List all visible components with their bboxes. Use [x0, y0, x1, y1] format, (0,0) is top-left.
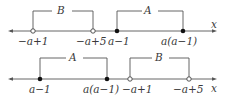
top-axis-label: x — [211, 18, 217, 30]
bottom-interval-b-label: B — [154, 51, 163, 63]
top-point-a-minus-1-filled — [115, 29, 120, 34]
top-label-neg-a-plus-1: −a+1 — [18, 35, 49, 47]
top-point-neg-a-plus-5-open — [91, 29, 95, 33]
top-label-a-times-a-minus-1: a(a−1) — [161, 35, 197, 47]
top-number-line: x B A −a+1 −a+5 a−1 a(a−1) — [8, 4, 217, 47]
right-arrow-icon — [212, 77, 217, 80]
top-label-neg-a-plus-5: −a+5 — [76, 35, 107, 47]
top-point-neg-a-plus-1-open — [31, 29, 35, 33]
number-line-diagram: x B A −a+1 −a+5 a−1 a(a−1) x A B — [0, 0, 227, 96]
bottom-label-neg-a-plus-1: −a+1 — [122, 83, 153, 95]
bottom-label-neg-a-plus-5: −a+5 — [173, 83, 204, 95]
bottom-label-a-times-a-minus-1: a(a−1) — [83, 83, 119, 95]
bottom-interval-a-label: A — [68, 51, 77, 63]
top-point-a-times-a-minus-1-filled — [181, 29, 186, 34]
bottom-label-a-minus-1: a−1 — [29, 83, 51, 95]
top-interval-b-label: B — [56, 4, 65, 16]
top-label-a-minus-1: a−1 — [108, 35, 130, 47]
top-interval-a-label: A — [143, 4, 152, 16]
left-arrow-icon — [8, 29, 13, 32]
left-arrow-icon — [8, 77, 13, 80]
bottom-number-line: x A B a−1 a(a−1) −a+1 −a+5 — [8, 51, 217, 95]
bottom-point-neg-a-plus-5-open — [187, 77, 191, 81]
bottom-axis-label: x — [211, 82, 217, 94]
bottom-point-a-minus-1-filled — [38, 77, 43, 82]
bottom-point-a-times-a-minus-1-filled — [105, 77, 110, 82]
bottom-point-neg-a-plus-1-open — [128, 77, 132, 81]
